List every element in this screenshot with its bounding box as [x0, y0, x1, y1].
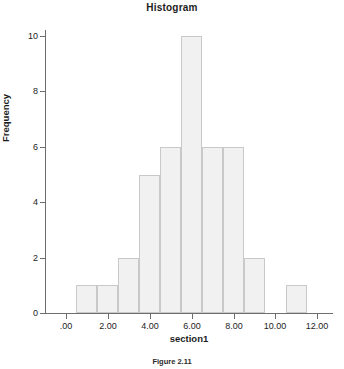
- x-tick: [108, 314, 109, 319]
- histogram-bar: [160, 147, 181, 313]
- y-tick-label: 0: [14, 309, 38, 318]
- x-tick-label: 6.00: [172, 321, 212, 331]
- x-tick-label: .00: [46, 321, 86, 331]
- histogram-bar: [202, 147, 223, 313]
- y-tick-label: 6: [14, 143, 38, 152]
- histogram-bar: [139, 175, 160, 314]
- figure-caption: Figure 2.11: [0, 357, 344, 369]
- x-tick: [275, 314, 276, 319]
- y-tick-label: 2: [14, 254, 38, 263]
- y-tick-label: 4: [14, 198, 38, 207]
- y-tick-label: 10: [14, 32, 38, 41]
- x-tick: [150, 314, 151, 319]
- chart-title: Histogram: [0, 2, 344, 13]
- x-tick-label: 4.00: [130, 321, 170, 331]
- histogram-bar: [181, 36, 202, 313]
- x-tick: [192, 314, 193, 319]
- histogram-bar: [118, 258, 139, 313]
- x-tick: [66, 314, 67, 319]
- y-axis-title: Frequency: [0, 128, 11, 142]
- x-tick-label: 2.00: [88, 321, 128, 331]
- histogram-figure: Histogram 0246810 .002.004.006.008.0010.…: [0, 0, 344, 369]
- x-tick: [317, 314, 318, 319]
- x-tick: [234, 314, 235, 319]
- histogram-bar: [76, 285, 97, 313]
- x-axis-title: section1: [45, 333, 333, 344]
- y-tick-label: 8: [14, 87, 38, 96]
- histogram-bar: [223, 147, 244, 313]
- histogram-bar: [97, 285, 118, 313]
- histogram-bar: [244, 258, 265, 313]
- x-tick-label: 12.00: [297, 321, 337, 331]
- x-tick-label: 10.00: [255, 321, 295, 331]
- histogram-bar: [286, 285, 307, 313]
- x-axis-line: [45, 313, 333, 314]
- x-tick-label: 8.00: [214, 321, 254, 331]
- plot-area: [45, 30, 332, 313]
- y-tick: [40, 313, 45, 314]
